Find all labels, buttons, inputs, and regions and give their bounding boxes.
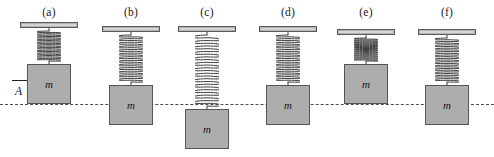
panel-label: (d) (248, 6, 328, 18)
mass-label: m (426, 99, 468, 111)
mass-block: m (344, 64, 388, 104)
mass-block: m (27, 64, 71, 104)
mass-block: m (185, 109, 229, 149)
mass-block: m (109, 85, 153, 125)
spring (37, 28, 61, 64)
mass-block: m (266, 85, 310, 125)
mass-block: m (425, 85, 469, 125)
panel-f: (f)m (407, 0, 487, 157)
panel-d: (d)m (248, 0, 328, 157)
panel-label: (a) (9, 6, 89, 18)
mass-label: m (186, 123, 228, 135)
panel-label: (c) (167, 6, 247, 18)
spring (119, 32, 143, 85)
mass-label: m (267, 99, 309, 111)
panel-label: (b) (91, 6, 171, 18)
mass-label: m (345, 78, 387, 90)
panel-label: (f) (407, 6, 487, 18)
panel-e: (e)m (326, 0, 406, 157)
panel-c: (c)m (167, 0, 247, 157)
mass-label: m (28, 78, 70, 90)
spring-mass-oscillation-figure: A (a)m(b)m(c)m(d)m(e)m(f)m (0, 0, 494, 157)
spring (276, 32, 300, 85)
spring (354, 35, 378, 64)
spring (195, 32, 219, 109)
mass-label: m (110, 99, 152, 111)
panel-a: (a)m (9, 0, 89, 157)
panel-b: (b)m (91, 0, 171, 157)
spring (435, 35, 459, 85)
panel-label: (e) (326, 6, 406, 18)
